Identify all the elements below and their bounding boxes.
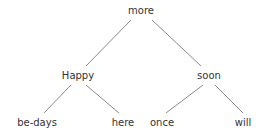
tree-node-leaf1: be-days [17,117,57,128]
edge-layer [0,0,271,134]
edge-right-leaf4 [215,85,243,113]
tree-node-right: soon [197,70,221,81]
tree-node-leaf2: here [112,117,135,128]
tree-node-leaf3: once [150,117,174,128]
edge-left-leaf2 [86,85,119,113]
tree-node-leaf4: will [235,117,252,128]
edge-left-leaf1 [44,85,71,113]
tree-node-root: more [128,5,154,16]
tree-node-left: Happy [62,70,94,81]
tree-diagram: moreHappysoonbe-dayshereoncewill [0,0,271,134]
tree-edges [44,20,243,113]
edge-right-leaf3 [166,85,203,113]
edge-root-left [86,20,131,66]
edge-root-right [152,20,201,66]
